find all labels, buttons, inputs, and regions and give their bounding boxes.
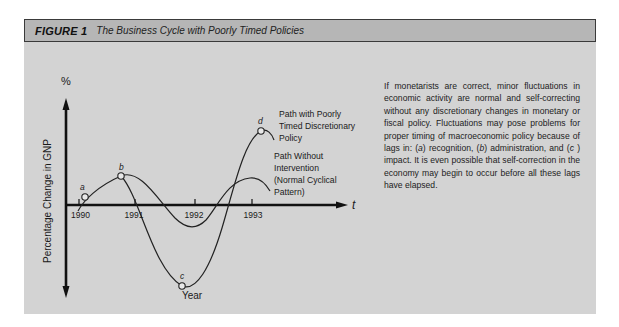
point-markers (82, 128, 264, 289)
point-d-label: d (258, 116, 263, 126)
legend-normal-line-1: Path Without (274, 151, 324, 161)
point-d-marker (258, 128, 264, 134)
y-axis (63, 98, 70, 298)
y-axis-down-arrow-icon (63, 286, 70, 298)
y-unit-label: % (61, 75, 71, 87)
x-axis-end-label: t (352, 198, 356, 212)
description-text: ) administration, and ( (484, 143, 570, 153)
point-a-label: a (80, 182, 85, 192)
y-axis-up-arrow-icon (63, 98, 70, 110)
path-without-intervention (78, 175, 270, 227)
point-c-marker (179, 283, 185, 289)
description-text: ) recognition, ( (423, 143, 480, 153)
point-a-marker (82, 194, 88, 200)
x-axis-arrow-icon (336, 202, 348, 209)
legend-normal-line-3: (Normal Cyclical (274, 175, 337, 185)
legend-without-intervention: Path Without Intervention (Normal Cyclic… (274, 151, 337, 197)
legend-poorly-timed-line-1: Path with Poorly (279, 109, 342, 119)
point-b-marker (118, 173, 124, 179)
legend-normal-line-4: Pattern) (274, 187, 305, 197)
legend-poorly-timed-line-3: Policy (279, 133, 303, 143)
point-c-label: c (180, 271, 185, 281)
tick-label-1993: 1993 (244, 210, 263, 220)
tick-label-1990: 1990 (71, 210, 90, 220)
figure-description: If monetarists are correct, minor fluctu… (384, 80, 580, 192)
y-axis-label: Percentage Change in GNP (42, 139, 53, 263)
legend-poorly-timed-line-2: Timed Discretionary (279, 121, 356, 131)
legend-normal-line-2: Intervention (274, 163, 319, 173)
path-with-poorly-timed-policy (121, 130, 274, 287)
tick-label-1991: 1991 (125, 210, 144, 220)
x-axis-label: Year (182, 290, 203, 301)
point-b-label: b (119, 162, 124, 172)
tick-label-1992: 1992 (185, 210, 204, 220)
x-axis (66, 199, 348, 209)
legend-poorly-timed: Path with Poorly Timed Discretionary Pol… (279, 109, 356, 143)
